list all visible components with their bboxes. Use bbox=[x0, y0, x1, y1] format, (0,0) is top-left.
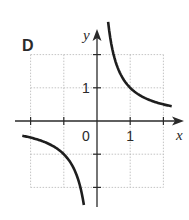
axes bbox=[15, 29, 184, 207]
x-tick-label: 1 bbox=[126, 128, 134, 144]
origin-label: 0 bbox=[82, 128, 90, 144]
axis-labels: 011xy bbox=[81, 27, 183, 144]
y-axis-label: y bbox=[81, 27, 90, 43]
hyperbola-chart: 011xy bbox=[0, 0, 189, 220]
curve-branch-negative bbox=[22, 136, 84, 205]
y-tick-label: 1 bbox=[82, 80, 90, 96]
curve-branch-positive bbox=[108, 22, 172, 106]
x-axis-label: x bbox=[175, 127, 183, 143]
